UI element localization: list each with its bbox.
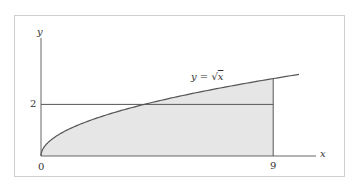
- y-axis-label: y: [37, 27, 43, 37]
- shaded-region: [41, 79, 273, 156]
- function-label: y = √x: [191, 72, 223, 82]
- function-label-eq: =: [200, 71, 208, 82]
- x-tick-9: 9: [270, 161, 276, 171]
- y-tick-2: 2: [30, 99, 36, 109]
- plot-area: [0, 0, 363, 194]
- figure: y x 0 9 2 y = √x: [0, 0, 363, 194]
- function-label-arg: x: [218, 71, 224, 82]
- x-tick-0: 0: [38, 162, 44, 172]
- function-label-lhs: y: [191, 71, 197, 82]
- x-axis-label: x: [320, 149, 326, 159]
